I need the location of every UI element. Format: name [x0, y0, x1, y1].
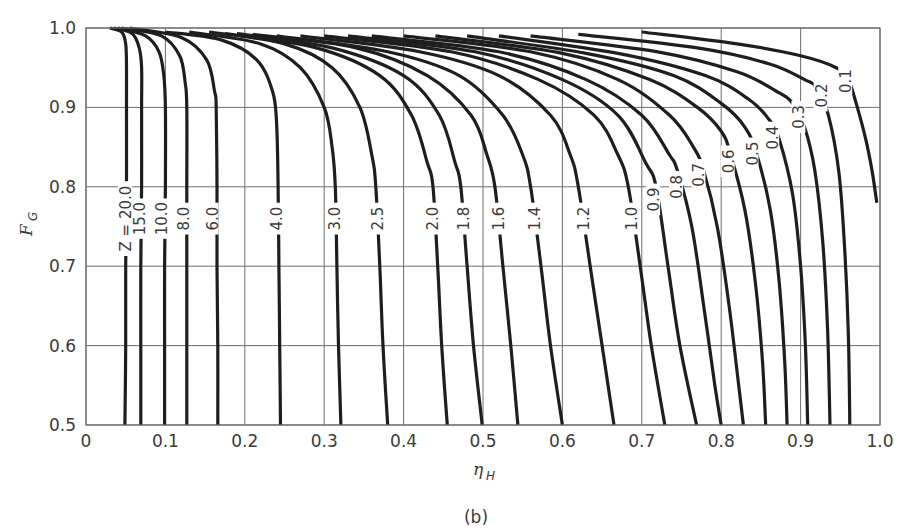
curve-label: 0.4	[764, 126, 782, 150]
x-tick-label: 0.1	[152, 431, 179, 451]
x-tick-label: 0	[81, 431, 92, 451]
curve-label-group: 0.4	[764, 122, 782, 154]
x-tick-label: 0.7	[628, 431, 655, 451]
curve-label: 1.6	[490, 207, 508, 231]
curve-label: 0.1	[837, 69, 855, 93]
x-tick-label: 1.0	[866, 431, 893, 451]
curve-label: 2.5	[369, 207, 387, 231]
curve-label: 2.0	[424, 207, 442, 231]
y-axis-label-main: F	[16, 223, 36, 237]
y-tick-label: 0.7	[49, 256, 76, 276]
curve-label: 6.0	[204, 207, 222, 231]
curve-label-group: 1.2	[575, 203, 593, 235]
curve-label: 0.6	[720, 149, 738, 173]
curve-label: 1.0	[623, 207, 641, 231]
curve-label: 3.0	[326, 207, 344, 231]
x-tick-label: 0.4	[390, 431, 417, 451]
curve-label: 0.8	[668, 175, 686, 199]
curve-label-group: 0.8	[668, 171, 686, 203]
y-tick-label: 0.5	[49, 415, 76, 435]
x-tick-label: 0.5	[469, 431, 496, 451]
chart-figure: Z = 20.015.010.08.06.04.03.02.52.01.81.6…	[0, 0, 899, 531]
curve-label-group: 6.0	[204, 203, 222, 235]
x-tick-label: 0.3	[311, 431, 338, 451]
x-axis-ticks: 00.10.20.30.40.50.60.70.80.91.0	[81, 431, 894, 451]
y-axis-label: F G	[16, 212, 40, 237]
curve-label: 4.0	[268, 207, 286, 231]
x-axis-label-main: η	[473, 459, 484, 479]
curve-label: 15.0	[131, 202, 149, 235]
curve-label-group: 1.0	[623, 203, 641, 235]
curve-label: 1.8	[455, 207, 473, 231]
curve-label: 8.0	[175, 207, 193, 231]
curve-label-group: 8.0	[175, 203, 193, 235]
curve-label-group: 0.2	[813, 80, 831, 112]
y-axis-label-sub: G	[26, 212, 40, 221]
y-tick-label: 1.0	[49, 18, 76, 38]
x-tick-label: 0.8	[708, 431, 735, 451]
curve-label-group: 15.0	[131, 198, 149, 238]
curve-label: 10.0	[153, 202, 171, 235]
curve-z-2.5	[209, 32, 388, 425]
y-tick-label: 0.6	[49, 336, 76, 356]
curve-label-group: 10.0	[153, 198, 171, 238]
curve-label: 0.7	[690, 163, 708, 187]
curve-z-0.2	[578, 34, 850, 425]
curve-label-group: 0.5	[744, 138, 762, 170]
curve-label: 0.9	[645, 188, 663, 212]
y-tick-label: 0.9	[49, 97, 76, 117]
curve-label: 1.4	[526, 207, 544, 231]
curve-labels: Z = 20.015.010.08.06.04.03.02.52.01.81.6…	[117, 65, 855, 256]
curve-label-group: 2.0	[424, 203, 442, 235]
curve-label-group: 2.5	[369, 203, 387, 235]
curve-label: 0.3	[790, 105, 808, 129]
x-tick-label: 0.9	[787, 431, 814, 451]
curve-label-group: 1.8	[455, 203, 473, 235]
curve-label: 0.2	[813, 84, 831, 108]
curve-label: 0.5	[744, 142, 762, 166]
curve-label-group: 1.4	[526, 203, 544, 235]
curve-label-group: 0.9	[645, 184, 663, 216]
curve-label: 1.2	[575, 207, 593, 231]
curve-label-group: 0.7	[690, 159, 708, 191]
curve-label-group: 0.3	[790, 101, 808, 133]
curve-label-group: 1.6	[490, 203, 508, 235]
y-axis-ticks: 0.50.60.70.80.91.0	[49, 18, 76, 435]
x-axis-label: η H	[473, 459, 495, 483]
x-tick-label: 0.6	[549, 431, 576, 451]
curve-label-group: 0.6	[720, 146, 738, 178]
x-axis-label-sub: H	[486, 469, 495, 483]
curve-label-group: 3.0	[326, 203, 344, 235]
y-tick-label: 0.8	[49, 177, 76, 197]
curve-label-group: 0.1	[837, 65, 855, 97]
x-tick-label: 0.2	[231, 431, 258, 451]
figure-caption: (b)	[464, 507, 488, 527]
curve-label-group: 4.0	[268, 203, 286, 235]
